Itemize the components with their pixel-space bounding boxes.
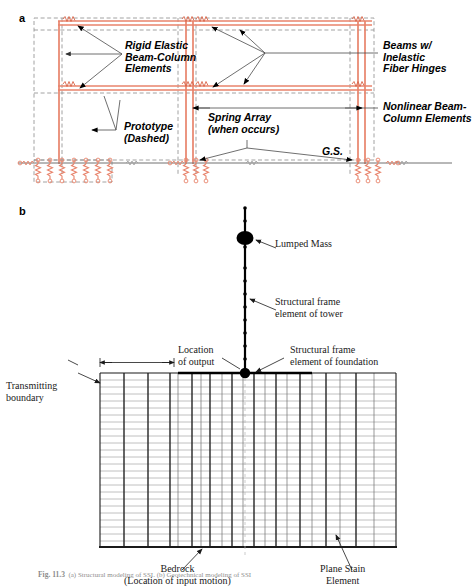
- panel-b-letter: b: [19, 205, 26, 217]
- panel-b-drawing: [0, 195, 468, 575]
- label-rigid-elastic: Rigid Elastic Beam-Column Elements: [125, 40, 196, 75]
- label-location-output: Location of output: [178, 344, 214, 367]
- foundation-base-node: [240, 368, 250, 378]
- mesh-vertical-bold: [124, 373, 356, 547]
- frame-columns: [59, 21, 365, 164]
- leader-location-output: [222, 358, 240, 369]
- leader-frame-tower: [250, 299, 276, 310]
- caption-text: (a) Structural modeling of SSI. (b) Geot…: [65, 571, 251, 579]
- leader-frame-foundation: [256, 358, 284, 372]
- label-prototype: Prototype (Dashed): [124, 121, 173, 144]
- leader-transmitting-boundary: [68, 360, 100, 383]
- frame-beams: [58, 21, 372, 90]
- label-beams-hinges: Beams w/ Inelastic Fiber Hinges: [383, 40, 447, 75]
- lumped-mass-marker: [237, 231, 254, 245]
- label-frame-tower: Structural frame element of tower: [275, 296, 343, 319]
- fiber-hinge-marks: [63, 17, 364, 87]
- leader-lumped-mass: [256, 240, 276, 248]
- spring-array-right: [356, 158, 400, 183]
- label-plane-strain: Plane Stain Element: [320, 563, 365, 586]
- figure-caption: Fig. 11.3 (a) Structural modeling of SSI…: [31, 562, 251, 587]
- mesh-horizontal-lines: [100, 380, 396, 541]
- panel-a-letter: a: [19, 12, 25, 24]
- spring-array-middle: [168, 158, 208, 183]
- caption-figure-number: Fig. 11.3: [38, 570, 65, 579]
- leader-rigid-elastic: [66, 26, 122, 88]
- mesh-boundary: [99, 373, 397, 547]
- label-lumped-mass: Lumped Mass: [275, 238, 332, 250]
- leader-prototype: [92, 96, 120, 130]
- label-frame-foundation: Structural frame element of foundation: [290, 344, 378, 367]
- mesh-vertical-lines: [124, 373, 374, 547]
- spring-array-left: [18, 158, 112, 183]
- leader-beams-hinges: [212, 27, 378, 87]
- label-nonlinear-beam-column: Nonlinear Beam- Column Elements: [383, 101, 472, 124]
- label-ground-surface: G.S.: [322, 146, 343, 158]
- label-transmitting-boundary: Transmitting boundary: [6, 380, 57, 403]
- dimension-location-output: [100, 358, 174, 367]
- label-spring-array: Spring Array (when occurs): [208, 112, 279, 135]
